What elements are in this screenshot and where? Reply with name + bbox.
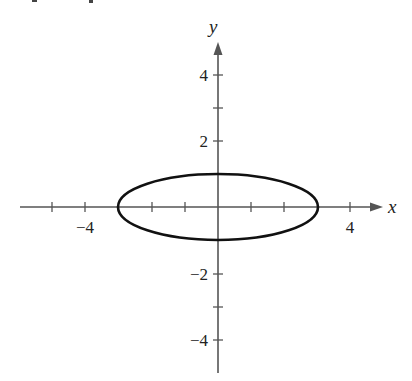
cropped-text-fragment [32, 0, 37, 2]
x-axis: −4 4 x [20, 196, 397, 237]
x-tick-label-4: 4 [346, 218, 355, 237]
y-axis-arrow-icon [214, 42, 223, 55]
y-tick-label-neg2: −2 [190, 265, 208, 284]
y-axis-label: y [207, 16, 218, 37]
y-tick-label-2: 2 [200, 132, 209, 151]
ellipse-graph: −4 4 x 4 2 −2 −4 y [0, 0, 412, 381]
y-tick-label-neg4: −4 [190, 331, 209, 350]
x-axis-arrow-icon [370, 203, 383, 212]
cropped-text-fragment [89, 0, 93, 3]
x-tick-label-neg4: −4 [76, 218, 95, 237]
x-axis-label: x [387, 196, 397, 217]
y-axis: 4 2 −2 −4 y [190, 16, 223, 373]
y-tick-label-4: 4 [200, 66, 209, 85]
